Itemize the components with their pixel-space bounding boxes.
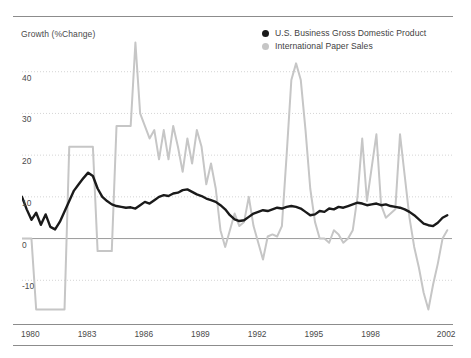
- x-tick-label: 2002: [437, 329, 456, 339]
- y-tick-label: 30: [22, 114, 31, 124]
- y-tick-label: 10: [22, 198, 31, 208]
- y-tick-label: 40: [22, 73, 31, 83]
- x-tick-label: 1983: [78, 329, 97, 339]
- plot-area: [22, 30, 452, 322]
- top-rule: [13, 16, 453, 17]
- x-tick-label: 1998: [361, 329, 380, 339]
- x-tick-label: 1989: [191, 329, 210, 339]
- plot-svg: [22, 30, 452, 322]
- x-tick-label: 1980: [21, 329, 40, 339]
- bottom-rule: [13, 345, 453, 346]
- x-tick-label: 1986: [134, 329, 153, 339]
- y-tick-label: -10: [22, 281, 34, 291]
- x-tick-label: 1992: [248, 329, 267, 339]
- series-line: [22, 173, 447, 230]
- y-tick-label: 0: [22, 240, 27, 250]
- x-tick-label: 1995: [305, 329, 324, 339]
- chart-figure: Growth (%Change) U.S. Business Gross Dom…: [0, 0, 471, 358]
- y-tick-label: 20: [22, 156, 31, 166]
- axis-rule-above-years: [13, 324, 453, 325]
- series-lines: [22, 43, 447, 310]
